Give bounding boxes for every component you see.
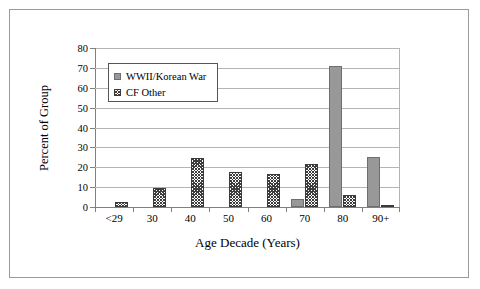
x-axis-tick-mark: [248, 208, 249, 212]
legend-swatch-solid-icon: [114, 73, 121, 80]
x-axis-tick-label: 70: [299, 212, 310, 224]
plot-top-border: [95, 48, 400, 49]
y-axis-tick-mark: [90, 147, 95, 148]
gridline: [95, 147, 400, 148]
bar: [329, 66, 342, 207]
bar: [343, 195, 356, 207]
bar: [191, 158, 204, 207]
x-axis-title: Age Decade (Years): [95, 235, 400, 251]
y-axis-tick-label: 10: [78, 182, 89, 193]
y-axis-tick-mark: [90, 108, 95, 109]
gridline: [95, 167, 400, 168]
x-axis-tick-label: <29: [105, 212, 122, 224]
y-axis-title: Percent of Group: [37, 85, 52, 171]
y-axis-tick-label: 20: [78, 162, 89, 173]
legend-label-series-2: CF Other: [126, 87, 165, 98]
legend-label-series-1: WWII/Korean War: [126, 71, 206, 82]
legend-item-cf-other: CF Other: [114, 84, 212, 100]
gridline: [95, 108, 400, 109]
x-axis-tick-mark: [324, 208, 325, 212]
x-axis-tick-label: 60: [261, 212, 272, 224]
y-axis-tick-label: 40: [78, 122, 89, 133]
x-axis-tick-mark: [286, 208, 287, 212]
bar: [305, 164, 318, 207]
x-axis-tick-label: 80: [337, 212, 348, 224]
y-axis-tick-label: 0: [83, 202, 88, 213]
y-axis-tick-mark: [90, 128, 95, 129]
chart-legend: WWII/Korean War CF Other: [108, 63, 218, 102]
legend-swatch-hatch-icon: [114, 89, 121, 96]
x-axis-tick-label: 90+: [372, 212, 389, 224]
y-axis-tick-label: 50: [78, 102, 89, 113]
y-axis-tick-mark: [90, 167, 95, 168]
y-axis-tick-label: 80: [78, 43, 89, 54]
legend-item-wwii-korean-war: WWII/Korean War: [114, 68, 212, 84]
x-axis-tick-label: 40: [185, 212, 196, 224]
bar: [229, 172, 242, 207]
bar: [115, 202, 128, 207]
y-axis-tick-mark: [90, 68, 95, 69]
gridline: [95, 187, 400, 188]
x-axis-tick-mark: [171, 208, 172, 212]
x-axis-tick-mark: [399, 208, 400, 212]
bar: [267, 174, 280, 207]
y-axis-tick-label: 30: [78, 142, 89, 153]
y-axis-tick-label: 70: [78, 62, 89, 73]
x-axis-tick-label: 30: [147, 212, 158, 224]
x-axis-tick-label: 50: [223, 212, 234, 224]
y-axis-tick-mark: [90, 88, 95, 89]
bar: [153, 188, 166, 207]
bar-chart: 01020304050607080<2930405060708090+ Perc…: [0, 0, 480, 289]
y-axis-tick-mark: [90, 48, 95, 49]
x-axis-tick-mark: [362, 208, 363, 212]
x-axis-tick-mark: [133, 208, 134, 212]
bar: [367, 157, 380, 207]
x-axis-tick-mark: [209, 208, 210, 212]
gridline: [95, 128, 400, 129]
bar: [291, 199, 304, 207]
bar: [381, 205, 394, 207]
y-axis-tick-label: 60: [78, 82, 89, 93]
x-axis-tick-mark: [95, 208, 96, 212]
y-axis-tick-mark: [90, 187, 95, 188]
